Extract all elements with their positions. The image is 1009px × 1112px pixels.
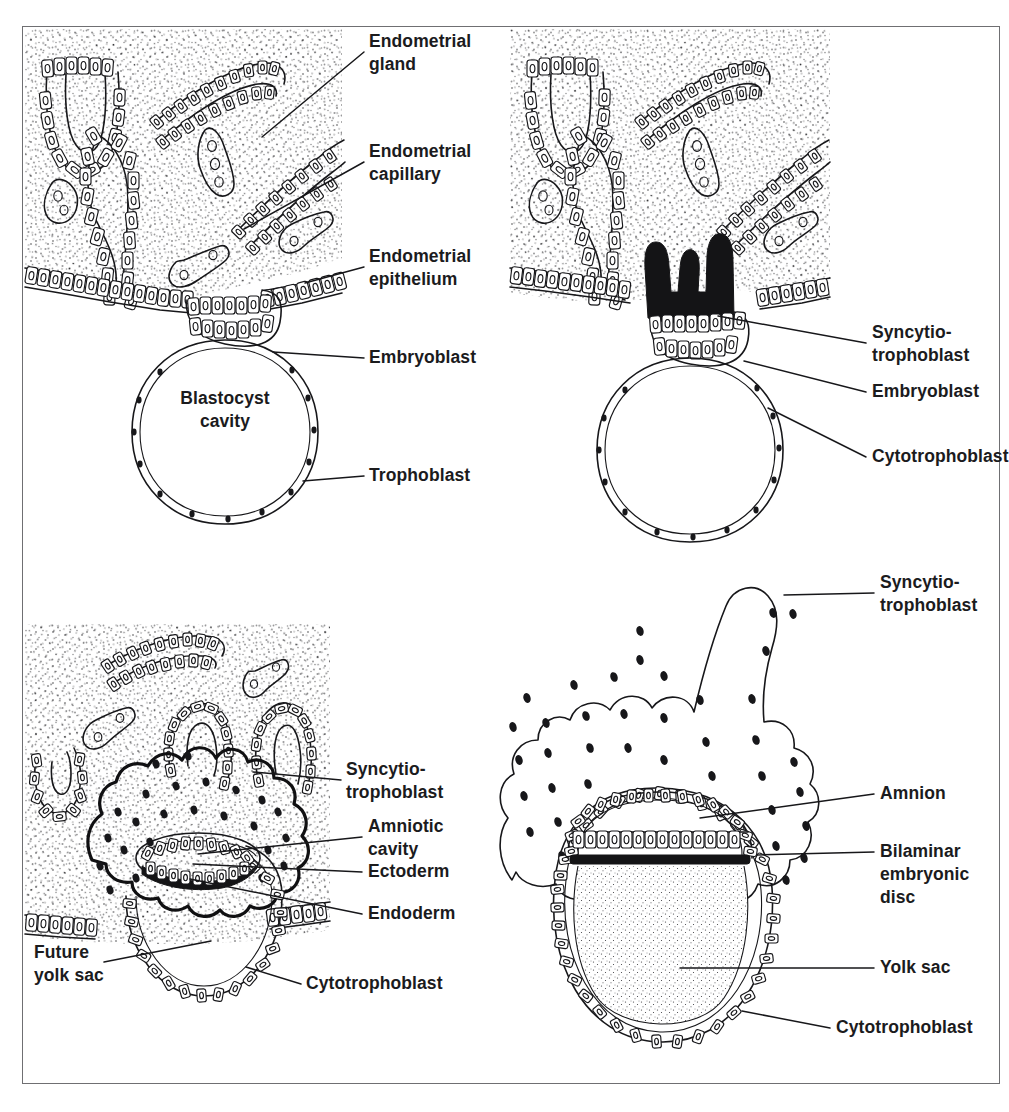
embryoblast bbox=[186, 290, 281, 346]
label-line: Blastocyst bbox=[180, 388, 270, 408]
label-line: cavity bbox=[200, 411, 250, 431]
label-panel-3-endoderm: Endoderm bbox=[368, 903, 455, 923]
label-panel-4-amnion: Amnion bbox=[880, 783, 946, 803]
label-panel-4-syncytiotrophoblast: Syncytio-trophoblast bbox=[880, 572, 977, 615]
label-line: Yolk sac bbox=[880, 957, 951, 977]
label-line: Endometrial bbox=[369, 246, 471, 266]
label-line: yolk sac bbox=[34, 965, 104, 985]
label-line: Syncytio- bbox=[880, 572, 960, 592]
label-panel-2-cytotrophoblast: Cytotrophoblast bbox=[872, 446, 1009, 466]
cytotrophoblast bbox=[596, 358, 783, 542]
label-panel-3-syncytiotrophoblast: Syncytio-trophoblast bbox=[346, 759, 443, 802]
label-line: Trophoblast bbox=[369, 465, 470, 485]
label-line: trophoblast bbox=[880, 595, 977, 615]
label-line: capillary bbox=[369, 164, 441, 184]
label-line: embryonic bbox=[880, 864, 970, 884]
figure-root: EndometrialglandEndometrialcapillaryEndo… bbox=[0, 0, 1009, 1112]
label-panel-2-syncytiotrophoblast: Syncytio-trophoblast bbox=[872, 322, 969, 365]
leader-line-bilaminar-embryonic-disc bbox=[757, 852, 874, 855]
label-panel-1-blastocyst-cavity: Blastocystcavity bbox=[180, 388, 270, 431]
label-line: Embryoblast bbox=[872, 381, 979, 401]
yolk-sac bbox=[574, 866, 748, 1024]
label-panel-4-bilaminar-embryonic-disc: Bilaminarembryonicdisc bbox=[880, 841, 970, 907]
panel-1-top-left bbox=[25, 29, 347, 524]
label-line: Ectoderm bbox=[368, 861, 450, 881]
leader-line-cytotrophoblast bbox=[742, 1011, 830, 1028]
label-line: gland bbox=[369, 54, 416, 74]
label-line: Amnion bbox=[880, 783, 946, 803]
label-line: Cytotrophoblast bbox=[836, 1017, 973, 1037]
label-line: Endometrial bbox=[369, 31, 471, 51]
endoderm-band bbox=[570, 855, 750, 864]
label-panel-3-cytotrophoblast: Cytotrophoblast bbox=[306, 973, 443, 993]
label-line: Amniotic bbox=[368, 816, 444, 836]
label-line: Future bbox=[34, 942, 89, 962]
label-line: Embryoblast bbox=[369, 347, 476, 367]
label-line: Bilaminar bbox=[880, 841, 961, 861]
label-line: epithelium bbox=[369, 269, 458, 289]
label-line: disc bbox=[880, 887, 916, 907]
label-line: Cytotrophoblast bbox=[872, 446, 1009, 466]
embryology-diagram: EndometrialglandEndometrialcapillaryEndo… bbox=[0, 0, 1009, 1112]
label-line: Syncytio- bbox=[346, 759, 426, 779]
label-line: Syncytio- bbox=[872, 322, 952, 342]
label-line: Cytotrophoblast bbox=[306, 973, 443, 993]
label-line: trophoblast bbox=[872, 345, 969, 365]
label-panel-1-endometrial-gland: Endometrialgland bbox=[369, 31, 471, 74]
bilaminar-embryonic-disc bbox=[570, 831, 750, 864]
label-panel-3-ectoderm: Ectoderm bbox=[368, 861, 450, 881]
leader-line-embryoblast bbox=[744, 361, 866, 392]
label-panel-1-endometrial-epithelium: Endometrialepithelium bbox=[369, 246, 471, 289]
label-panel-1-trophoblast: Trophoblast bbox=[369, 465, 470, 485]
label-panel-1-endometrial-capillary: Endometrialcapillary bbox=[369, 141, 471, 184]
label-panel-4-yolk-sac: Yolk sac bbox=[880, 957, 951, 977]
leader-line-trophoblast bbox=[303, 476, 364, 481]
label-line: Endometrial bbox=[369, 141, 471, 161]
leader-line-future-yolk-sac bbox=[104, 941, 211, 962]
label-panel-1-embryoblast: Embryoblast bbox=[369, 347, 476, 367]
leader-line-syncytiotrophoblast bbox=[784, 593, 874, 595]
leader-line-embryoblast bbox=[273, 352, 364, 358]
panel-4-bottom-right bbox=[500, 588, 819, 1049]
label-panel-4-cytotrophoblast: Cytotrophoblast bbox=[836, 1017, 973, 1037]
label-panel-3-future-yolk-sac: Futureyolk sac bbox=[34, 942, 104, 985]
label-panel-3-amniotic-cavity: Amnioticcavity bbox=[368, 816, 444, 859]
panel-2-top-right bbox=[510, 29, 830, 542]
blastocyst bbox=[131, 340, 318, 524]
label-line: cavity bbox=[368, 839, 418, 859]
label-line: trophoblast bbox=[346, 782, 443, 802]
label-panel-2-embryoblast: Embryoblast bbox=[872, 381, 979, 401]
label-line: Endoderm bbox=[368, 903, 455, 923]
